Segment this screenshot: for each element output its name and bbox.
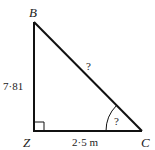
angle-c-label: ? — [114, 115, 119, 127]
triangle-edges — [33, 22, 142, 132]
vertex-z-label: Z — [23, 135, 31, 150]
right-angle-marker — [34, 122, 44, 131]
side-bc-hypotenuse — [34, 22, 142, 131]
vertex-c-label: C — [141, 135, 150, 150]
vertex-b-label: B — [29, 5, 37, 20]
side-zc-label: 2·5 m — [72, 136, 98, 148]
side-bc-label: ? — [86, 60, 91, 72]
triangle-diagram: B 7·81 Z 2·5 m C ? ? — [0, 0, 155, 150]
side-bz-label: 7·81 — [3, 80, 23, 92]
